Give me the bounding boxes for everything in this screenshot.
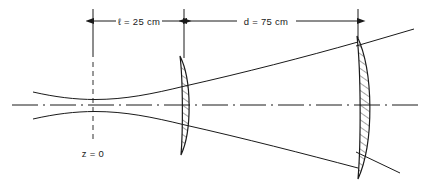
beam-lower-edge — [33, 112, 358, 169]
optics-figure: ℓ = 25 cm d = 75 cm z = 0 — [0, 0, 428, 186]
dimension-label-d: d = 75 cm — [244, 16, 289, 27]
optics-diagram-canvas: ℓ = 25 cm d = 75 cm z = 0 — [0, 0, 428, 186]
dimension-label-l: ℓ = 25 cm — [118, 16, 160, 27]
beam-upper-exit-ray — [356, 29, 414, 46]
reference-lines — [93, 9, 358, 143]
waist-label: z = 0 — [82, 148, 104, 159]
beam-upper-edge — [33, 42, 358, 100]
